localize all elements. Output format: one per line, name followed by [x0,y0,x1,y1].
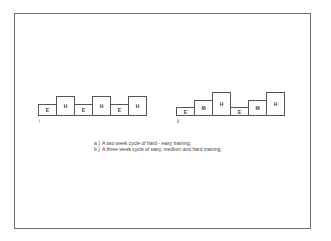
bar-easy: E [38,104,57,116]
diagram-hard-easy-cycle: E H E H E H [38,95,149,116]
bar-easy: E [110,104,129,116]
caption-key-b: b ) [94,146,102,152]
caption-line-b: b ) A three week cycle of easy, medium a… [94,146,222,152]
bar-hard: H [212,92,231,116]
bar-medium: M [248,100,267,116]
diagram-a-sublabel: i [39,118,40,124]
figure-frame [14,13,311,229]
bar-hard: H [92,96,111,116]
bar-hard: H [128,96,147,116]
bar-hard: H [56,96,75,116]
bar-easy: E [74,104,93,116]
bar-hard: H [266,92,285,116]
caption-text-b: A three week cycle of easy, medium and h… [102,146,222,152]
bar-easy: E [176,107,195,116]
bar-easy: E [230,107,249,116]
diagram-easy-medium-hard-cycle: E M H E M H [176,91,289,116]
figure-caption: a ) A two week cycle of hard - easy trai… [94,140,222,152]
bar-medium: M [194,100,213,116]
diagram-b-sublabel: ii [177,118,179,124]
